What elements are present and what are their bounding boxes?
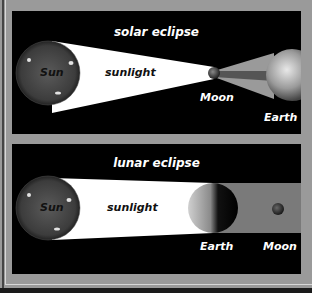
moon-label: Moon <box>200 91 234 104</box>
frame-highlight-bottom <box>5 284 312 285</box>
sun-label: Sun <box>40 66 64 79</box>
lunar-eclipse-title: lunar eclipse <box>12 156 301 170</box>
sun-label: Sun <box>40 201 64 214</box>
sunlight-label: sunlight <box>107 201 158 214</box>
solar-eclipse-title: solar eclipse <box>12 25 301 39</box>
frame-border-bottom <box>0 288 312 293</box>
moon-icon <box>208 67 220 79</box>
earth-label: Earth <box>200 240 233 253</box>
sunlight-label: sunlight <box>105 66 156 79</box>
earth-icon <box>188 183 238 233</box>
moon-label: Moon <box>263 240 297 253</box>
frame-highlight-left <box>5 0 6 285</box>
lunar-eclipse-panel: lunar eclipse Sun sunlight Earth Moon <box>12 144 301 274</box>
solar-eclipse-panel: solar eclipse Sun sunlight Moon Earth <box>12 11 301 134</box>
frame-border-left <box>2 0 4 288</box>
moon-icon <box>272 203 284 215</box>
earth-label: Earth <box>264 111 297 124</box>
